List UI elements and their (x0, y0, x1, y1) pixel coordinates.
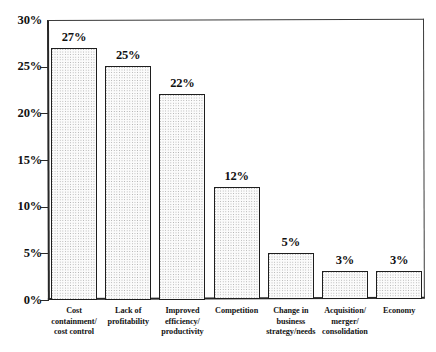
bar-chart: 0%5%10%15%20%25%30% 27%25%22%12%5%3%3% C… (0, 0, 436, 352)
bar (214, 187, 260, 299)
y-axis-tick-mark (40, 160, 49, 161)
bar (51, 48, 97, 300)
y-axis-tick-mark (40, 207, 49, 208)
bar-value-label: 3% (368, 254, 430, 267)
y-axis-tick-label: 15% (0, 154, 42, 167)
y-axis-tick-mark (40, 253, 49, 254)
y-axis-tick-label: 30% (0, 14, 42, 27)
bar (268, 253, 314, 300)
y-axis-tick-mark (40, 113, 49, 114)
bar-value-label: 27% (43, 31, 105, 44)
bar (105, 66, 151, 299)
y-axis-tick-label: 10% (0, 200, 42, 213)
y-axis-tick-label: 5% (0, 247, 42, 260)
bar-value-label: 5% (260, 236, 322, 249)
y-axis-tick-label: 25% (0, 60, 42, 73)
bar-value-label: 25% (97, 49, 159, 62)
bar (159, 94, 205, 299)
bar (376, 271, 422, 299)
bar-value-label: 3% (314, 254, 376, 267)
x-axis-category-label: Economy (367, 306, 431, 317)
y-axis-tick-label: 20% (0, 107, 42, 120)
y-axis-tick-mark (40, 300, 49, 301)
bar (322, 271, 368, 299)
y-axis-tick-label: 0% (0, 294, 42, 307)
bar-value-label: 12% (206, 170, 268, 183)
y-axis-tick-mark (40, 67, 49, 68)
bar-value-label: 22% (151, 77, 213, 90)
